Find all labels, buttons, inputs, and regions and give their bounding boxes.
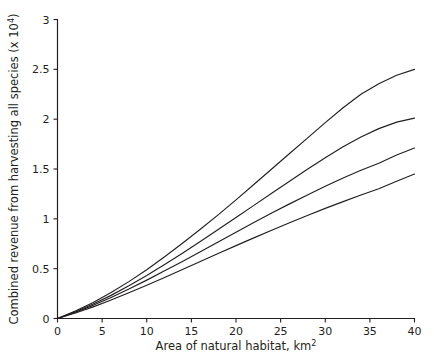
- y-tick-label: 0.5: [32, 263, 50, 276]
- y-tick-label: 0: [43, 313, 50, 326]
- chart-background: [0, 0, 434, 363]
- chart-svg: 00.511.522.53 0510152025303540 Area of n…: [0, 0, 434, 363]
- x-tick-label: 40: [408, 325, 422, 338]
- x-tick-label: 35: [363, 325, 377, 338]
- y-tick-label: 3: [43, 14, 50, 27]
- x-tick-label: 0: [54, 325, 61, 338]
- y-axis-title: Combined revenue from harvesting all spe…: [7, 14, 21, 325]
- chart-figure: 00.511.522.53 0510152025303540 Area of n…: [0, 0, 434, 363]
- x-axis-title: Area of natural habitat, km2: [156, 339, 317, 353]
- x-tick-label: 25: [274, 325, 288, 338]
- y-tick-label: 1.5: [32, 163, 50, 176]
- x-tick-label: 30: [318, 325, 332, 338]
- y-tick-label: 1: [43, 213, 50, 226]
- x-tick-label: 15: [184, 325, 198, 338]
- x-tick-label: 20: [229, 325, 243, 338]
- x-tick-label: 5: [99, 325, 106, 338]
- y-tick-label: 2.5: [32, 63, 50, 76]
- x-tick-label: 10: [140, 325, 154, 338]
- y-tick-label: 2: [43, 113, 50, 126]
